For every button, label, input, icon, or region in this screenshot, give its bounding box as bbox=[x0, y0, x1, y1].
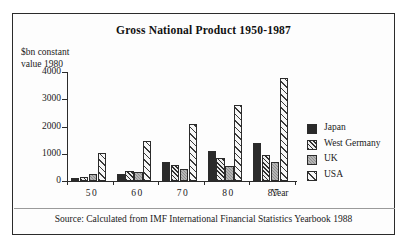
y-axis-tick: 4000 bbox=[13, 72, 69, 82]
legend-item-usa[interactable]: USA bbox=[307, 169, 402, 185]
legend-item-west-germany[interactable]: West Germany bbox=[307, 138, 402, 154]
y-axis-tick-mark bbox=[62, 72, 67, 73]
x-axis-tick-mark bbox=[249, 181, 250, 185]
bar-west-germany-60 bbox=[125, 171, 133, 181]
x-axis-tick-label-60: 60 bbox=[118, 188, 158, 198]
dense-hatch-swatch bbox=[307, 140, 317, 150]
bar-group-70 bbox=[162, 71, 202, 181]
bar-uk-70 bbox=[180, 169, 188, 181]
legend-label: UK bbox=[324, 153, 338, 163]
bar-group-50 bbox=[71, 71, 111, 181]
y-axis-tick: 2000 bbox=[13, 127, 69, 137]
x-axis-caption: Year bbox=[271, 188, 289, 198]
y-axis-tick-mark bbox=[62, 127, 67, 128]
gray-dotted-swatch bbox=[307, 155, 317, 165]
legend: JapanWest GermanyUKUSA bbox=[307, 122, 402, 184]
legend-label: USA bbox=[324, 169, 343, 179]
y-axis-tick-mark bbox=[62, 154, 67, 155]
bar-uk-80 bbox=[225, 166, 233, 181]
legend-label: West Germany bbox=[324, 138, 380, 148]
bar-japan-60 bbox=[117, 174, 125, 181]
bar-usa-87 bbox=[280, 78, 288, 181]
legend-label: Japan bbox=[324, 122, 346, 132]
chart-frame: Gross National Product 1950-1987 $bn con… bbox=[12, 13, 395, 235]
bar-japan-70 bbox=[162, 162, 170, 181]
legend-item-uk[interactable]: UK bbox=[307, 153, 402, 169]
x-axis-tick-label-80: 80 bbox=[209, 188, 249, 198]
y-axis-tick-label: 4000 bbox=[19, 66, 61, 76]
bar-group-60 bbox=[117, 71, 157, 181]
y-axis-tick-label: 3000 bbox=[19, 93, 61, 103]
sparse-hatch-swatch bbox=[307, 171, 317, 181]
footer-divider bbox=[14, 208, 395, 209]
y-axis-tick-label: 2000 bbox=[19, 121, 61, 131]
bar-usa-60 bbox=[143, 141, 151, 181]
bar-usa-50 bbox=[98, 153, 106, 181]
legend-item-japan[interactable]: Japan bbox=[307, 122, 402, 138]
x-axis-tick-mark bbox=[158, 181, 159, 185]
solid-black-swatch bbox=[307, 124, 317, 134]
bar-usa-80 bbox=[234, 105, 242, 181]
x-axis-line bbox=[67, 181, 297, 182]
source-note: Source: Calculated from IMF Internationa… bbox=[13, 214, 394, 224]
bar-group-80 bbox=[208, 71, 248, 181]
bar-japan-87 bbox=[253, 143, 261, 181]
y-axis-tick-label: 1000 bbox=[19, 148, 61, 158]
x-axis-tick-label-50: 50 bbox=[72, 188, 112, 198]
bar-west-germany-50 bbox=[80, 177, 88, 181]
y-axis-tick-mark bbox=[62, 99, 67, 100]
bar-west-germany-80 bbox=[216, 158, 224, 181]
x-axis-tick-mark-end bbox=[295, 181, 296, 185]
bar-uk-87 bbox=[271, 162, 279, 181]
bar-uk-60 bbox=[134, 172, 142, 181]
x-axis-tick-label-70: 70 bbox=[163, 188, 203, 198]
y-axis-tick: 3000 bbox=[13, 99, 69, 109]
bar-west-germany-87 bbox=[262, 155, 270, 181]
bar-usa-70 bbox=[189, 124, 197, 181]
y-axis-tick-label: 0 bbox=[19, 175, 61, 185]
bar-group-87 bbox=[253, 71, 293, 181]
bar-uk-50 bbox=[89, 174, 97, 181]
bar-japan-80 bbox=[208, 151, 216, 181]
y-axis-tick: 1000 bbox=[13, 154, 69, 164]
x-axis-tick-mark bbox=[113, 181, 114, 185]
x-axis-tick-mark bbox=[67, 181, 68, 185]
bar-west-germany-70 bbox=[171, 165, 179, 181]
bar-japan-50 bbox=[71, 178, 79, 181]
x-axis-tick-mark bbox=[204, 181, 205, 185]
y-axis-tick: 0 bbox=[13, 181, 69, 191]
